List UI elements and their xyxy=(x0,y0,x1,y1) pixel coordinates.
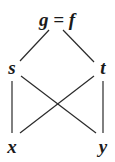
node-x-label: x xyxy=(6,136,17,157)
lattice-diagram: g = f s t x y xyxy=(0,0,115,162)
node-s-label: s xyxy=(7,57,15,78)
node-t-label: t xyxy=(100,57,106,78)
edge-s-y xyxy=(21,76,96,133)
edge-top-t xyxy=(63,30,94,62)
edges xyxy=(12,30,103,133)
node-top-label: g = f xyxy=(38,9,77,30)
edge-t-x xyxy=(20,76,94,133)
edge-top-s xyxy=(20,30,49,61)
node-y-label: y xyxy=(97,136,108,157)
